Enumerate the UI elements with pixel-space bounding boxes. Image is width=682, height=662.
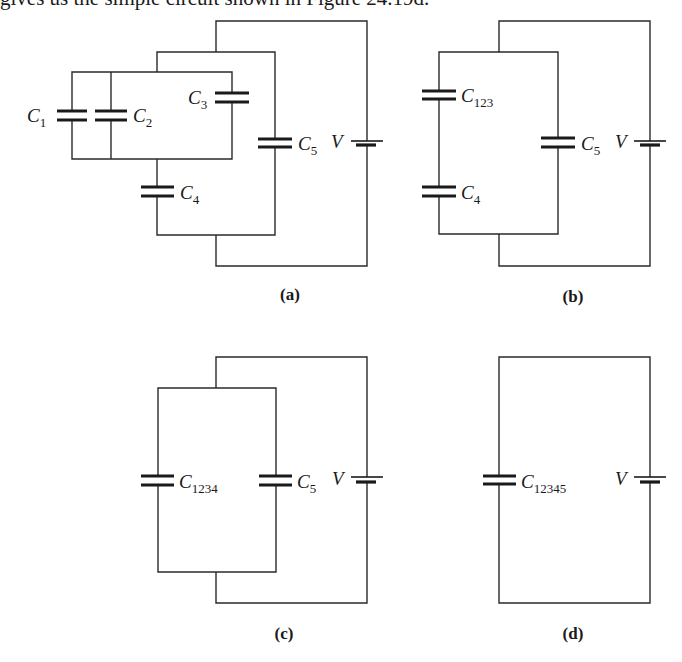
battery-icon	[351, 477, 383, 482]
circuit-b: C123 C4 C5 V (b)	[422, 21, 666, 306]
capacitor-c1-icon	[57, 111, 87, 120]
panel-label-d: (d)	[563, 624, 584, 643]
label-v: V	[331, 131, 345, 152]
label-c3: C3	[188, 87, 207, 112]
wire-outer-a	[216, 21, 367, 141]
wire-inner-top-c	[158, 388, 276, 476]
label-c4: C4	[461, 182, 481, 207]
label-c5: C5	[298, 133, 317, 158]
capacitor-c2-icon	[95, 111, 127, 120]
label-c1234: C1234	[179, 471, 218, 496]
capacitor-c3-icon	[215, 93, 249, 102]
label-v: V	[332, 468, 346, 489]
circuit-c: C1234 C5 V (c)	[141, 357, 383, 643]
label-c12345: C12345	[521, 471, 566, 496]
circuit-a: C1 C2 C3 C4 C5 V (a)	[27, 21, 383, 304]
label-c4: C4	[180, 182, 200, 207]
circuit-diagrams: C1 C2 C3 C4 C5 V (a)	[0, 0, 682, 662]
wire-outer-b	[499, 21, 650, 141]
wire-bottom-d	[499, 482, 650, 603]
wire-top-d	[499, 357, 650, 477]
label-c5: C5	[581, 133, 600, 158]
wire-outer-c	[216, 357, 367, 477]
capacitor-c12345-icon	[483, 476, 516, 484]
capacitor-c4-icon	[141, 187, 174, 196]
wire-inner-bottom-c	[158, 485, 276, 572]
label-c123: C123	[461, 85, 493, 110]
capacitor-c5-icon	[541, 138, 575, 147]
capacitor-c5-icon	[258, 139, 292, 147]
panel-label-c: (c)	[275, 624, 294, 643]
battery-icon	[351, 141, 383, 145]
wire-inner-top-b	[439, 52, 558, 138]
wire-inner-top-a	[72, 72, 232, 111]
capacitor-c5-icon	[259, 476, 292, 485]
wire-inner-bottom-b	[439, 147, 558, 234]
wire-outer-bottom-a	[216, 145, 367, 266]
panel-label-a: (a)	[280, 285, 300, 304]
label-c5: C5	[297, 471, 316, 496]
wire-outer-bottom-c	[216, 482, 367, 603]
label-c1: C1	[27, 105, 46, 130]
wire-middle-bottom-a	[157, 147, 275, 235]
capacitor-c123-icon	[422, 91, 456, 99]
label-v: V	[615, 131, 629, 152]
capacitor-c1234-icon	[141, 476, 174, 485]
circuit-d: C12345 V (d)	[483, 357, 666, 643]
capacitor-c4-icon	[422, 187, 456, 196]
wire-middle-a	[157, 52, 275, 139]
label-v: V	[615, 468, 629, 489]
panel-label-b: (b)	[563, 287, 584, 306]
battery-icon	[634, 477, 666, 482]
label-c2: C2	[133, 105, 152, 130]
battery-icon	[634, 141, 666, 145]
wire-outer-bottom-b	[499, 145, 650, 266]
